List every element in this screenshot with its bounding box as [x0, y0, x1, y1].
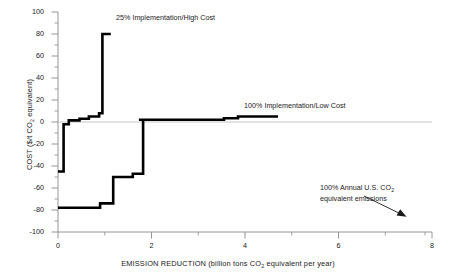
ytick-label-100: 100: [10, 8, 44, 16]
xtick-label-4: 4: [233, 242, 257, 250]
low-cost-series-label: 100% Implementation/Low Cost: [244, 101, 345, 111]
xtick-label-0: 0: [46, 242, 70, 250]
xtick-label-8: 8: [420, 242, 444, 250]
x-axis-title: EMISSION REDUCTION (billion tons CO2 equ…: [0, 259, 456, 268]
ytick-label-n100: -100: [10, 228, 44, 236]
y-axis-title: COST ($/t CO2 equivalent): [25, 30, 34, 220]
chart-canvas: [0, 0, 456, 277]
x-major-ticks: [58, 232, 432, 239]
us-emissions-annotation-line1: 100% Annual U.S. CO2: [320, 183, 394, 194]
chart-figure: 100 80 60 40 20 0 -20 -40 -60 -80 -100 0…: [0, 0, 456, 277]
x-minor-ticks: [105, 232, 425, 236]
xtick-label-6: 6: [327, 242, 351, 250]
high-cost-series-label: 25% Implementation/High Cost: [116, 13, 215, 23]
series-low-cost-line: [58, 117, 278, 208]
series-high-cost-line: [58, 34, 111, 172]
us-emissions-annotation-line2: equivalent emissions: [320, 194, 394, 204]
xtick-label-2: 2: [140, 242, 164, 250]
us-emissions-annotation: 100% Annual U.S. CO2 equivalent emission…: [320, 183, 394, 203]
